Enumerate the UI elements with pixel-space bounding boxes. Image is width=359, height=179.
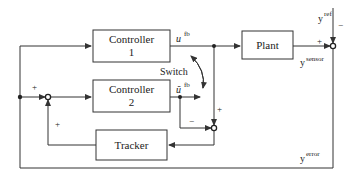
svg-text:error: error bbox=[306, 150, 320, 158]
plant-block: Plant bbox=[242, 31, 293, 59]
junction-dot-ufb bbox=[212, 44, 216, 48]
svg-text:u: u bbox=[176, 33, 181, 44]
summing-junction-left bbox=[45, 94, 50, 99]
junction-dot-left bbox=[18, 95, 22, 99]
controller2-number: 2 bbox=[129, 96, 135, 108]
svg-text:fb: fb bbox=[184, 30, 190, 38]
sign-left-top-plus: + bbox=[32, 82, 37, 92]
signal-u-fb: u fb bbox=[176, 30, 190, 44]
sign-mid-plus: + bbox=[217, 104, 222, 114]
sign-right-plus: + bbox=[317, 36, 322, 46]
svg-text:ref: ref bbox=[324, 10, 332, 18]
controller2-block: Controller 2 bbox=[93, 80, 170, 112]
junction-dot-utilde bbox=[178, 95, 182, 99]
signal-y-sensor: y sensor bbox=[300, 55, 325, 68]
svg-text:y: y bbox=[300, 57, 305, 68]
controller1-label: Controller bbox=[109, 33, 155, 45]
switch-label: Switch bbox=[160, 66, 188, 77]
svg-text:y: y bbox=[318, 13, 323, 24]
plant-label: Plant bbox=[256, 39, 279, 51]
signal-y-error: y error bbox=[300, 150, 320, 164]
svg-text:sensor: sensor bbox=[306, 55, 325, 63]
block-diagram: Controller 1 Controller 2 Plant Tracker bbox=[0, 0, 359, 179]
sign-right-minus: − bbox=[338, 20, 343, 30]
tracker-block: Tracker bbox=[96, 130, 167, 160]
controller2-label: Controller bbox=[109, 83, 155, 95]
signal-y-ref: y ref bbox=[318, 10, 332, 24]
svg-text:y: y bbox=[300, 153, 305, 164]
summing-junction-mid bbox=[211, 125, 216, 130]
svg-text:ũ: ũ bbox=[176, 84, 181, 95]
sign-mid-minus: − bbox=[189, 116, 194, 126]
svg-text:fb: fb bbox=[184, 81, 190, 89]
sign-left-bottom-plus: + bbox=[55, 119, 60, 129]
controller1-block: Controller 1 bbox=[93, 30, 170, 62]
controller1-number: 1 bbox=[129, 46, 135, 58]
tracker-label: Tracker bbox=[115, 139, 149, 151]
signal-u-tilde-fb: ũ fb bbox=[176, 81, 190, 95]
summing-junction-right bbox=[330, 43, 335, 48]
